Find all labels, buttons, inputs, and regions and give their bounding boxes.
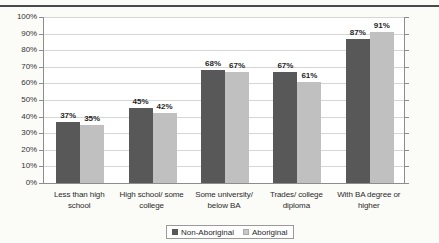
- secondary-axis-tick-mark: [405, 133, 409, 134]
- legend-item-aboriginal[interactable]: Aboriginal: [243, 228, 288, 237]
- secondary-axis-tick-mark: [405, 34, 409, 35]
- legend-label-non-aboriginal: Non-Aboriginal: [181, 228, 234, 237]
- legend-label-aboriginal: Aboriginal: [252, 228, 288, 237]
- category-label-line: school: [39, 200, 119, 211]
- category-label-line: Less than high: [39, 189, 119, 200]
- category-label-line: college: [111, 200, 191, 211]
- category-label-line: With BA degree or: [329, 189, 409, 200]
- secondary-axis-tick-mark: [405, 83, 409, 84]
- secondary-axis-tick-mark: [405, 117, 409, 118]
- secondary-axis-tick-mark: [405, 183, 409, 184]
- category-label-line: below BA: [184, 200, 264, 211]
- chart-legend[interactable]: Non-Aboriginal Aboriginal: [166, 225, 294, 239]
- y-axis-tick-label: 30%: [0, 129, 37, 137]
- top-text-fragment: [92, 0, 106, 5]
- legend-swatch-aboriginal-icon: [243, 229, 249, 235]
- legend-swatch-non-aboriginal-icon: [172, 229, 178, 235]
- y-axis-tick-label: 20%: [0, 146, 37, 154]
- secondary-axis-tick-mark: [405, 150, 409, 151]
- bar-non-aboriginal: [201, 70, 225, 183]
- bar-aboriginal: [153, 113, 177, 183]
- y-axis-tick-label: 90%: [0, 30, 37, 38]
- x-axis-category-label: Trades/ collegediploma: [256, 189, 336, 211]
- bar-value-label: 67%: [267, 61, 303, 70]
- bar-value-label: 61%: [291, 71, 327, 80]
- y-axis-tick-label: 60%: [0, 79, 37, 87]
- x-axis-category-label: High school/ somecollege: [111, 189, 191, 211]
- bar-non-aboriginal: [56, 122, 80, 183]
- bar-aboriginal: [225, 72, 249, 183]
- bar-non-aboriginal: [273, 72, 297, 183]
- category-label-line: Trades/ college: [256, 189, 336, 200]
- secondary-axis-tick-mark: [405, 166, 409, 167]
- y-axis-tick-label: 0%: [0, 179, 37, 187]
- x-axis-category-label: With BA degree orhigher: [329, 189, 409, 211]
- bar-non-aboriginal: [129, 108, 153, 183]
- y-axis-tick-label: 40%: [0, 113, 37, 121]
- x-axis-line: [43, 183, 405, 184]
- y-axis-tick-label: 10%: [0, 162, 37, 170]
- bar-value-label: 67%: [219, 61, 255, 70]
- y-axis-tick-label: 70%: [0, 63, 37, 71]
- bar-value-label: 42%: [147, 102, 183, 111]
- x-axis-category-label: Less than highschool: [39, 189, 119, 211]
- bar-aboriginal: [297, 82, 321, 183]
- y-axis-tick-label: 100%: [0, 13, 37, 21]
- legend-item-non-aboriginal[interactable]: Non-Aboriginal: [172, 228, 234, 237]
- secondary-axis-tick-mark: [405, 67, 409, 68]
- y-axis-tick-label: 80%: [0, 46, 37, 54]
- category-label-line: High school/ some: [111, 189, 191, 200]
- bars-layer: 37%35%45%42%68%67%67%61%87%91%: [44, 17, 404, 183]
- secondary-axis-tick-mark: [405, 100, 409, 101]
- bar-aboriginal: [370, 32, 394, 183]
- category-label-line: diploma: [256, 200, 336, 211]
- bar-chart: 0%10%20%30%40%50%60%70%80%90%100% 37%35%…: [0, 8, 439, 243]
- top-divider-rule: [0, 5, 439, 7]
- secondary-axis-tick-mark: [405, 50, 409, 51]
- bar-value-label: 35%: [74, 114, 110, 123]
- category-label-line: higher: [329, 200, 409, 211]
- bar-value-label: 91%: [364, 21, 400, 30]
- y-axis-tick-label: 50%: [0, 96, 37, 104]
- secondary-axis-line: [404, 17, 405, 183]
- x-axis-category-label: Some university/below BA: [184, 189, 264, 211]
- bar-aboriginal: [80, 125, 104, 183]
- category-label-line: Some university/: [184, 189, 264, 200]
- secondary-axis-tick-mark: [405, 17, 409, 18]
- bar-non-aboriginal: [346, 39, 370, 183]
